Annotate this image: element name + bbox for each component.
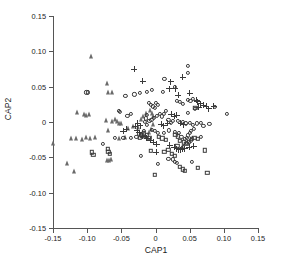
x-tick-label: -0.05 [113, 234, 130, 243]
data-point-square [153, 173, 157, 177]
data-point-plus [172, 86, 178, 92]
y-tick-label: 0 [42, 118, 46, 127]
x-tick-mark [121, 229, 122, 233]
x-tick-label: 0.05 [182, 234, 196, 243]
y-tick-label: 0.10 [32, 47, 46, 56]
data-point-triangle [119, 120, 123, 125]
data-point-square [164, 137, 168, 141]
data-point-plus [175, 92, 181, 98]
data-point-plus [166, 86, 172, 92]
data-point-square [108, 152, 112, 156]
data-point-plus [158, 121, 164, 127]
x-tick-mark [258, 229, 259, 233]
data-point-plus [140, 78, 146, 84]
data-point-triangle [104, 117, 108, 122]
data-point-plus [180, 74, 186, 80]
data-point-square [175, 144, 179, 148]
x-tick-mark [156, 229, 157, 233]
data-point-square [205, 171, 209, 175]
data-point-square [147, 135, 151, 139]
data-point-triangle [69, 135, 73, 140]
y-tick-label: 0.15 [32, 12, 46, 21]
data-point-square [91, 152, 95, 156]
data-point-triangle [93, 134, 97, 139]
data-point-triangle [109, 157, 113, 162]
data-point-triangle [106, 128, 110, 133]
data-point-plus [187, 90, 193, 96]
y-tick-label: -0.15 [29, 224, 46, 233]
scatter-plot-area [53, 16, 258, 228]
x-axis-label: CAP1 [145, 245, 167, 255]
x-tick-mark [87, 229, 88, 233]
data-point-triangle [75, 110, 79, 115]
data-point-square [183, 169, 187, 173]
data-point-square [149, 149, 153, 153]
x-tick-label: -0.10 [79, 234, 96, 243]
data-point-square [138, 135, 142, 139]
data-point-plus [181, 122, 187, 128]
y-tick-label: -0.10 [29, 188, 46, 197]
data-point-square [166, 147, 170, 151]
x-tick-label: -0.15 [45, 234, 62, 243]
y-axis-label-wrapper: CAP2 [14, 0, 15, 245]
data-point-plus [131, 66, 137, 72]
data-point-square [193, 106, 197, 110]
data-point-square [176, 134, 180, 138]
data-point-square [172, 154, 176, 158]
data-point-plus [123, 126, 129, 132]
x-tick-label: 0 [153, 234, 157, 243]
data-point-triangle [65, 160, 69, 165]
y-tick-label: -0.05 [29, 153, 46, 162]
data-point-plus [168, 79, 174, 85]
data-point-triangle [105, 81, 109, 86]
data-point-plus [154, 141, 160, 147]
data-point-square [196, 166, 200, 170]
data-point-square [196, 137, 200, 141]
cap-ordination-figure: CAP2 CAP1 -0.15-0.10-0.0500.050.100.15 -… [0, 0, 291, 279]
x-tick-mark [53, 229, 54, 233]
y-tick-label: 0.05 [32, 82, 46, 91]
x-tick-label: 0.10 [217, 234, 231, 243]
data-point-triangle [87, 111, 91, 116]
data-point-square [202, 148, 206, 152]
data-point-triangle [110, 90, 114, 95]
data-point-triangle [72, 169, 76, 174]
data-point-plus [153, 149, 159, 155]
y-axis-label: CAP2 [3, 98, 13, 120]
data-point-triangle [74, 136, 78, 141]
x-tick-mark [224, 229, 225, 233]
x-tick-label: 0.15 [251, 234, 265, 243]
data-point-triangle [88, 135, 92, 140]
data-point-triangle [51, 141, 55, 146]
data-point-plus [174, 112, 180, 118]
data-point-plus [191, 143, 197, 149]
data-point-triangle [89, 53, 93, 58]
x-tick-mark [190, 229, 191, 233]
data-point-plus [211, 103, 217, 109]
